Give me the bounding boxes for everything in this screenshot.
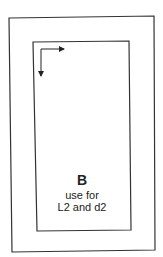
description-line-1: use for: [33, 189, 131, 201]
outer-frame: [9, 16, 155, 252]
direction-arrows-icon: [41, 49, 64, 76]
diagram-canvas: [0, 0, 163, 257]
panel-description: use for L2 and d2: [33, 189, 131, 213]
panel-label: B: [33, 172, 131, 188]
description-line-2: L2 and d2: [33, 201, 131, 213]
